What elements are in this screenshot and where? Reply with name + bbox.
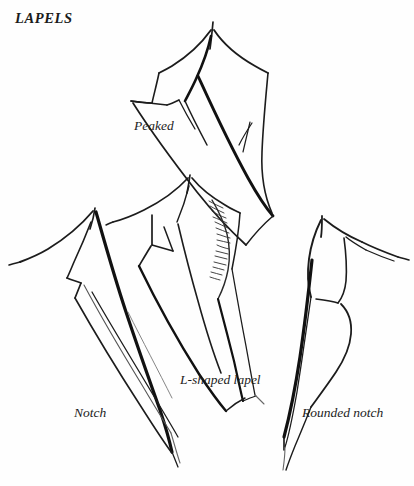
figure-notch xyxy=(9,208,180,467)
figure-label-l-shaped: L-shaped lapel xyxy=(180,373,261,387)
figure-label-notch: Notch xyxy=(74,406,106,420)
illustration-sheet: LAPELS Peaked Notch L-shaped lapel Round… xyxy=(0,0,414,486)
figure-peaked xyxy=(131,22,273,245)
page-title: LAPELS xyxy=(15,11,73,26)
figure-label-peaked: Peaked xyxy=(134,119,174,133)
figure-rounded-notch xyxy=(283,216,409,470)
figure-label-rounded-notch: Rounded notch xyxy=(302,406,383,420)
